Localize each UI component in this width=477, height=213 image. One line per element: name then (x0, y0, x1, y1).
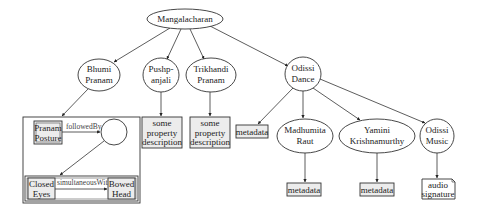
node-label-line2: Raut (297, 136, 314, 146)
node-label-line2: Eyes (33, 189, 51, 199)
edge-dance-music (320, 79, 425, 123)
edge-label-simultaneous: simultaneousWith (57, 178, 112, 187)
box-yamini-metadata[interactable]: metadata (360, 183, 394, 196)
box-line1: some (201, 118, 220, 128)
box-pushpanjali-description[interactable]: some property description (142, 117, 182, 148)
edge-root-bhumi (114, 28, 170, 62)
composite-pranam-sequence[interactable]: Pranam Posture followedBy Closed Eyes si… (23, 117, 140, 203)
box-label: metadata (361, 185, 393, 195)
node-label-line1: Trikhandi (193, 64, 229, 74)
edge-label-followed-by: followedBy (66, 122, 102, 131)
node-label-line2: Pranam (197, 75, 225, 85)
box-odissi-dance-metadata[interactable]: metadata (236, 125, 268, 138)
box-trikhandi-description[interactable]: some property description (190, 117, 230, 148)
node-mangalacharan[interactable]: Mangalacharan (147, 9, 223, 29)
node-bhumi-pranam[interactable]: Bhumi Pranam (78, 59, 120, 91)
node-yamini-krishnamurthy[interactable]: Yamini Krishnamurthy (339, 119, 415, 153)
edge-root-trikhandi (190, 29, 204, 59)
box-madhumita-metadata[interactable]: metadata (287, 183, 321, 196)
node-label-line2: Pranam (85, 75, 113, 85)
node-label-line1: Pushp- (148, 64, 173, 74)
ontology-diagram: Mangalacharan Bhumi Pranam Pushp- anjali… (0, 0, 477, 213)
box-label: metadata (236, 127, 268, 137)
node-blank[interactable] (101, 119, 127, 145)
group-simultaneous[interactable]: Closed Eyes simultaneousWith Bowed Head (25, 176, 138, 201)
node-label-line1: Yamini (364, 125, 391, 135)
node-label-line1: Odissi (291, 63, 315, 73)
node-label-line1: Odissi (425, 125, 449, 135)
box-line3: description (142, 137, 182, 147)
node-label-line1: Pranam (34, 123, 62, 133)
node-odissi-dance[interactable]: Odissi Dance (285, 57, 321, 91)
node-trikhandi-pranam[interactable]: Trikhandi Pranam (186, 58, 236, 92)
node-label-line1: Bowed (109, 179, 135, 189)
box-line2: property (147, 128, 178, 138)
node-bowed-head[interactable]: Bowed Head (108, 178, 135, 199)
node-pranam-posture[interactable]: Pranam Posture (34, 121, 62, 144)
box-label: metadata (288, 185, 320, 195)
node-closed-eyes[interactable]: Closed Eyes (28, 178, 55, 199)
box-line2: signature (422, 189, 455, 199)
box-audio-signature[interactable]: audio signature (422, 179, 456, 199)
node-label-line1: Closed (29, 179, 55, 189)
node-odissi-music[interactable]: Odissi Music (420, 119, 454, 153)
node-label-line2: Krishnamurthy (350, 136, 405, 146)
node-label-line2: Posture (35, 133, 62, 143)
node-label: Mangalacharan (157, 14, 213, 24)
node-label-line2: Dance (292, 74, 315, 84)
node-pushpanjali[interactable]: Pushp- anjali (143, 58, 179, 92)
node-label-line2: Head (112, 189, 131, 199)
node-madhumita-raut[interactable]: Madhumita Raut (277, 119, 333, 153)
node-label-line2: anjali (151, 75, 171, 85)
node-label-line1: Bhumi (87, 64, 112, 74)
edge-dance-metadata (258, 88, 293, 124)
node-label-line1: Madhumita (284, 125, 326, 135)
edge-bhumi-composite (62, 89, 88, 116)
edge-root-pushpanjali (167, 29, 181, 59)
box-line3: description (190, 137, 230, 147)
box-line2: property (195, 128, 226, 138)
box-line1: some (153, 118, 172, 128)
node-label-line2: Music (426, 136, 449, 146)
